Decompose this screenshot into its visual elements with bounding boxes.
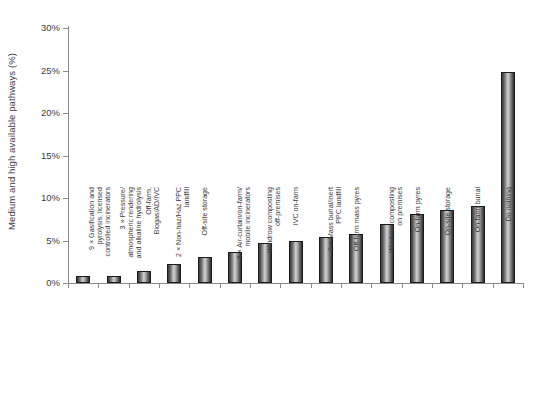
x-axis-label: On-farm burial (474, 187, 482, 291)
x-tick-mark (462, 283, 463, 288)
y-tick-label-wrap: 20% (18, 108, 60, 118)
x-tick-mark (220, 283, 221, 288)
bar-chart-figure: Medium and high available pathways (%) 0… (0, 0, 537, 398)
x-axis-label: Windrow composting off-premises (266, 187, 282, 291)
x-tick-mark (68, 283, 69, 288)
y-tick-label: 5% (20, 236, 60, 246)
x-axis-label: 3 × Pressure/ atmospheric rendering and … (119, 187, 143, 291)
x-axis-label: IVC on-farm (292, 187, 300, 291)
x-axis-label: 3 × Air-curtain/on-farm/ mobile incinera… (236, 187, 252, 291)
y-tick-label-wrap: 15% (18, 151, 60, 161)
x-tick-mark (493, 283, 494, 288)
x-tick-mark (523, 283, 524, 288)
y-tick-label: 0% (20, 278, 60, 288)
x-tick-mark (371, 283, 372, 288)
x-tick-mark (311, 283, 312, 288)
x-axis-label: Windrow composting on premises (388, 187, 404, 291)
x-axis-label: Off-site storage (201, 187, 209, 291)
y-tick-label: 20% (20, 108, 60, 118)
x-axis-label: Off-farm mass pyres (353, 187, 361, 291)
y-tick-label: 30% (20, 23, 60, 33)
x-axis-label: On-site storage (444, 187, 452, 291)
y-tick-label: 10% (20, 193, 60, 203)
y-tick-label-wrap: 30% (18, 23, 60, 33)
x-axis-label: 9 × Gasification and pyrolysis, licensed… (88, 187, 112, 291)
y-tick-label-wrap: 10% (18, 193, 60, 203)
x-axis-label: 2 × Non-haz/Haz PPC landfill (175, 187, 191, 291)
x-axis-label: 2 × Mass burial/inert PPC landfill (327, 187, 343, 291)
y-tick-label-wrap: 5% (18, 236, 60, 246)
y-tick-label: 15% (20, 151, 60, 161)
x-axis-label: Do nothing (505, 187, 513, 291)
x-axis-label: Off-farm, Biogas/AD/IVC (145, 187, 161, 291)
y-tick-label-wrap: 0% (18, 278, 60, 288)
x-tick-mark (432, 283, 433, 288)
x-axis-label: On-farm pyres (414, 187, 422, 291)
y-tick-label: 25% (20, 66, 60, 76)
y-tick-label-wrap: 25% (18, 66, 60, 76)
